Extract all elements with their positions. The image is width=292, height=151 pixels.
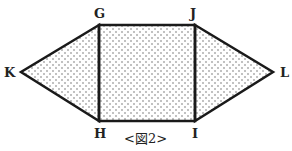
vertex-label-i: I bbox=[192, 127, 198, 140]
square-gjih bbox=[99, 25, 195, 121]
right-triangle-jli bbox=[195, 25, 273, 121]
vertex-label-l: L bbox=[280, 66, 289, 79]
geometry-figure bbox=[0, 0, 292, 151]
vertex-label-g: G bbox=[94, 7, 105, 20]
left-triangle-gkh bbox=[21, 25, 99, 121]
vertex-label-k: K bbox=[4, 66, 15, 79]
vertex-label-j: J bbox=[190, 7, 196, 20]
vertex-label-h: H bbox=[94, 127, 106, 140]
figure-caption: <図2> bbox=[124, 132, 167, 145]
